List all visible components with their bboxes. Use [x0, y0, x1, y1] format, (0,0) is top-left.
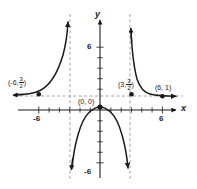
right-branch-up-arrow: [131, 28, 132, 42]
point-label-neg6-close: ): [24, 79, 26, 86]
point-label-origin: (0, 0): [78, 98, 94, 105]
point-label-3-fraction: 32: [126, 78, 131, 92]
point-label-3-int: (3,: [118, 81, 126, 88]
point-label-3-close: ): [132, 81, 134, 88]
x-tick-label-6: 6: [159, 115, 163, 123]
point-label-3: (3,32): [118, 78, 134, 92]
y-axis-label: y: [95, 10, 100, 19]
y-tick-label-6: 6: [87, 43, 91, 51]
x-axis-label: x: [181, 104, 186, 113]
point-marker-neg6: [37, 92, 42, 97]
y-tick-label-neg6: -6: [84, 168, 91, 176]
fraction-denominator: 2: [126, 84, 131, 91]
point-label-neg6: (-6,32): [8, 76, 26, 90]
left-branch-left-arrow: [13, 95, 24, 96]
x-tick-label-neg6: -6: [33, 115, 40, 123]
graph-canvas: y x -6 6 6 -6 (-6,32) (0, 0) (3,32) (6, …: [0, 0, 197, 189]
point-label-neg6-int: (-6,: [8, 79, 19, 86]
graph-svg: [0, 0, 197, 189]
fraction-numerator: 3: [126, 78, 131, 84]
point-label-neg6-fraction: 32: [19, 76, 24, 90]
point-marker-3: [129, 92, 134, 97]
point-marker-origin: [97, 104, 102, 109]
point-label-6: (6, 1): [155, 84, 171, 91]
point-marker-6: [160, 94, 165, 99]
fraction-denominator: 2: [19, 82, 24, 89]
